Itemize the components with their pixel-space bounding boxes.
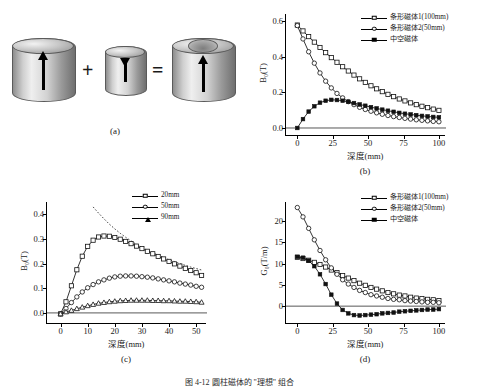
hollow-cylinder-magnet (172, 38, 234, 100)
panel-label-a: (a) (95, 126, 135, 136)
y-tick-label: 0.4 (33, 209, 44, 219)
data-point (431, 115, 435, 119)
data-point (426, 115, 430, 119)
data-point (113, 235, 117, 239)
data-point (301, 29, 305, 33)
data-point (363, 290, 367, 294)
data-point (380, 312, 384, 316)
legend: 条形磁体1(100mm) 条形磁体2(50mm) 中空磁体 (361, 192, 448, 225)
legend-item[interactable]: 中空磁体 (361, 214, 448, 225)
data-point (183, 266, 187, 270)
data-point (437, 301, 441, 305)
legend-line-circle (361, 205, 387, 213)
legend-item[interactable]: 50mm (132, 201, 179, 212)
data-point (341, 99, 345, 103)
data-point (107, 276, 111, 280)
x-axis-label: 深度(mm) (285, 149, 445, 161)
x-axis-label: 深度(mm) (46, 337, 206, 349)
legend-label: 20mm (161, 192, 179, 199)
data-point (91, 282, 95, 286)
data-point (341, 273, 345, 277)
data-point (425, 106, 429, 110)
x-tick-label: 75 (399, 326, 408, 336)
data-point (392, 292, 396, 296)
data-point (380, 295, 384, 299)
data-point (392, 110, 396, 114)
legend-item[interactable]: 条形磁体2(50mm) (361, 203, 448, 214)
data-point (431, 300, 435, 304)
data-point (178, 264, 182, 268)
data-point (358, 281, 362, 285)
x-axis-label: 深度(mm) (285, 337, 445, 349)
legend-item[interactable]: 90mm (132, 212, 179, 223)
legend-line-filled (361, 36, 387, 44)
data-point (140, 274, 144, 278)
data-point (113, 275, 117, 279)
data-point (318, 248, 322, 252)
data-point (375, 87, 379, 91)
legend-line-triangle (132, 214, 158, 222)
legend-line-circle (132, 203, 158, 211)
data-point (397, 293, 401, 297)
x-tick-label: 0 (295, 138, 299, 148)
data-point (386, 109, 390, 113)
legend-label: 条形磁体1(100mm) (390, 194, 448, 201)
y-tick-label: 0.0 (33, 308, 44, 318)
y-axis-label: B₀(T) (19, 251, 29, 271)
data-point (124, 239, 128, 243)
x-tick-label: 50 (364, 326, 373, 336)
legend-item[interactable]: 条形磁体2(50mm) (361, 23, 448, 34)
data-point (403, 112, 407, 116)
data-point (420, 300, 424, 304)
data-point (403, 309, 407, 313)
data-point (167, 279, 171, 283)
data-point (352, 101, 356, 105)
data-point (340, 278, 344, 282)
x-tick-label: 100 (433, 138, 446, 148)
data-point (129, 242, 133, 246)
data-point (96, 235, 100, 239)
data-point (318, 71, 322, 75)
data-point (96, 280, 100, 284)
y-tick-label: 0.1 (33, 283, 44, 293)
data-point (102, 278, 106, 282)
data-point (69, 300, 73, 304)
legend-item[interactable]: 条形磁体1(100mm) (361, 12, 448, 23)
data-point (408, 117, 412, 121)
legend-label: 50mm (161, 203, 179, 210)
data-point (392, 311, 396, 315)
data-point (318, 45, 322, 49)
data-point (324, 99, 328, 103)
data-point (414, 118, 418, 122)
data-point (369, 292, 373, 296)
data-point (194, 284, 198, 288)
legend-line-circle (361, 25, 387, 33)
data-point (397, 115, 401, 119)
data-point (397, 310, 401, 314)
legend-item[interactable]: 条形磁体1(100mm) (361, 192, 448, 203)
data-point (80, 254, 84, 258)
data-point (75, 268, 79, 272)
data-point (312, 40, 316, 44)
data-point (296, 255, 300, 259)
data-point (80, 290, 84, 294)
data-point (178, 281, 182, 285)
x-tick-label: 25 (328, 138, 337, 148)
legend-item[interactable]: 中空磁体 (361, 34, 448, 45)
data-point (324, 265, 328, 269)
data-point (352, 285, 356, 289)
legend-label: 中空磁体 (390, 216, 418, 223)
data-point (363, 107, 367, 111)
data-point (414, 309, 418, 313)
legend-item[interactable]: 20mm (132, 190, 179, 201)
data-point (425, 300, 429, 304)
data-point (167, 259, 171, 263)
y-axis-label: G₀(T/m) (259, 247, 269, 276)
data-point (107, 234, 111, 238)
y-tick-label: 5 (279, 280, 283, 290)
data-point (318, 272, 322, 276)
data-point (380, 289, 384, 293)
data-point (312, 61, 316, 65)
plus-symbol: + (82, 60, 93, 80)
panel-d-chart: 051015200255075100 G₀(T/m) 深度(mm) 条形磁体1(… (239, 188, 479, 388)
